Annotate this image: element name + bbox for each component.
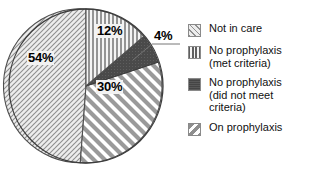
- pie-chart-figure: 54% 12% 30% 4% Not in care No prophylaxi…: [0, 0, 314, 170]
- pie-label-not-in-care: 54%: [27, 51, 54, 65]
- legend-label-no-prophylaxis-not-met: No prophylaxis (did not meet criteria): [209, 76, 282, 114]
- legend-item-not-in-care: Not in care: [188, 22, 314, 37]
- pie-slice-not-in-care: [3, 9, 86, 163]
- dark-solid-swatch-icon: [188, 78, 201, 91]
- legend-item-no-prophylaxis-not-met: No prophylaxis (did not meet criteria): [188, 76, 314, 114]
- pie-label-no-prophylaxis-met: 12%: [96, 24, 123, 38]
- vertical-lines-swatch-icon: [188, 46, 201, 59]
- legend-item-no-prophylaxis-met: No prophylaxis (met criteria): [188, 44, 314, 69]
- diagonal-hatch-down-swatch-icon: [188, 123, 201, 136]
- pie-chart-svg: [0, 0, 186, 170]
- legend-label-no-prophylaxis-met: No prophylaxis (met criteria): [209, 44, 282, 69]
- legend-item-on-prophylaxis: On prophylaxis: [188, 121, 314, 136]
- chart-legend: Not in care No prophylaxis (met criteria…: [188, 22, 314, 143]
- legend-label-not-in-care: Not in care: [209, 22, 262, 35]
- pie-label-on-prophylaxis: 30%: [96, 80, 123, 94]
- diagonal-hatch-up-swatch-icon: [188, 24, 201, 37]
- legend-label-on-prophylaxis: On prophylaxis: [209, 121, 282, 134]
- pie-chart-area: 54% 12% 30% 4%: [0, 0, 186, 170]
- pie-label-no-prophylaxis-not-met: 4%: [153, 29, 173, 43]
